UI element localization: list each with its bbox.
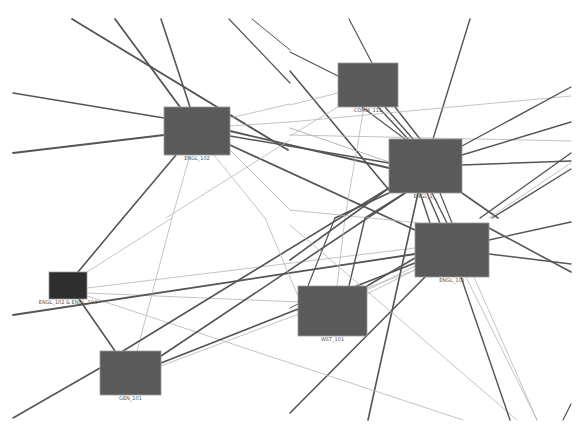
node-box[interactable] bbox=[389, 139, 462, 193]
graph-node-gen101[interactable]: GEN_101 bbox=[100, 351, 161, 402]
node-label: ENGL_1__ bbox=[413, 193, 438, 200]
node-label: COMM_111 bbox=[354, 107, 382, 114]
node-label: GEN_101 bbox=[119, 395, 142, 402]
graph-node-engl1xx[interactable]: ENGL_1__ bbox=[389, 139, 462, 200]
node-box[interactable] bbox=[298, 286, 367, 336]
graph-node-comm111[interactable]: COMM_111 bbox=[338, 63, 398, 114]
node-box[interactable] bbox=[164, 107, 230, 155]
node-label: ENGL_102 bbox=[184, 155, 210, 162]
graph-node-engl101[interactable]: ENGL_101 bbox=[415, 223, 489, 284]
node-box[interactable] bbox=[338, 63, 398, 107]
node-box[interactable] bbox=[415, 223, 489, 277]
node-label: WST_101 bbox=[321, 336, 344, 343]
graph-node-engl102[interactable]: ENGL_102 bbox=[164, 107, 230, 162]
node-label: ENGL_101 bbox=[439, 277, 465, 284]
graph-node-wst101[interactable]: WST_101 bbox=[298, 286, 367, 343]
node-box[interactable] bbox=[100, 351, 161, 395]
network-graph: ENGL_102COMM_111ENGL_1__ENGL_101ENGL_102… bbox=[0, 0, 581, 438]
node-label: ENGL_102 & ENGL_104 bbox=[39, 299, 97, 306]
node-box[interactable] bbox=[49, 272, 87, 299]
